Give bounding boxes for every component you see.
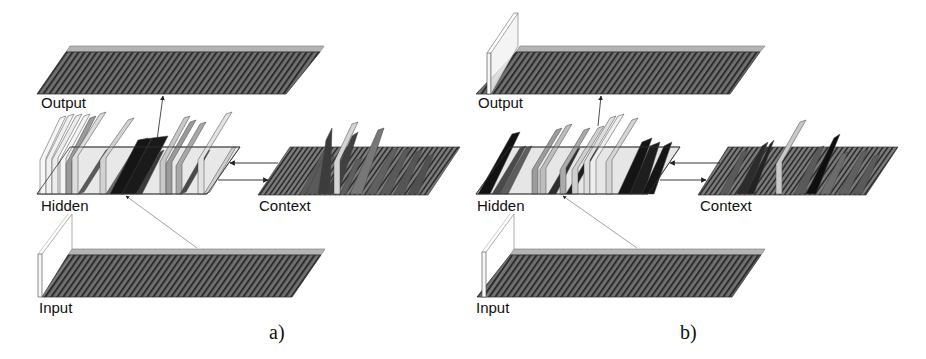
context-label-b: Context: [700, 198, 752, 213]
hidden-to-output-arrow: [598, 96, 601, 126]
rnn-figure: [0, 0, 926, 359]
hidden-layer-block: [476, 114, 680, 194]
context-label-a: Context: [259, 198, 311, 213]
hidden-to-output-arrow: [157, 96, 163, 140]
input-label-a: Input: [39, 300, 72, 315]
output-label-a: Output: [41, 95, 86, 110]
hidden-label-b: Hidden: [477, 198, 525, 213]
hidden-label-a: Hidden: [41, 198, 89, 213]
panel-a: [37, 46, 460, 297]
output-layer-plane: [476, 13, 765, 94]
input-to-hidden-arrow: [126, 196, 197, 248]
context-layer-plane: [258, 122, 460, 195]
context-layer-plane: [698, 120, 898, 195]
input-layer-plane: [477, 214, 765, 297]
panel-b-caption: b): [680, 322, 697, 342]
input-layer-plane: [38, 214, 325, 297]
input-label-b: Input: [476, 300, 509, 315]
hidden-layer-block: [37, 112, 240, 194]
panel-b: [476, 13, 898, 297]
output-label-b: Output: [478, 95, 523, 110]
input-to-hidden-arrow: [563, 196, 637, 248]
panel-a-caption: a): [269, 322, 285, 342]
output-layer-plane: [37, 46, 324, 94]
